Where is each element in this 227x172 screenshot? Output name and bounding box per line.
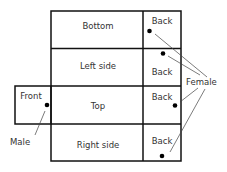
panel-label-front: Front — [20, 91, 42, 101]
male-connector-dot — [45, 103, 50, 108]
female-connector-dot — [173, 103, 178, 108]
female-leader-line — [180, 88, 198, 102]
back-label: Back — [152, 16, 173, 26]
box-net-diagram: Bottom Left side Top Right side Front Ba… — [0, 0, 227, 172]
female-connector-dot — [161, 51, 166, 56]
male-leader-line — [35, 111, 45, 135]
female-leader-line — [170, 89, 205, 152]
panel-label-top: Top — [90, 101, 105, 111]
female-callout-label: Female — [186, 77, 217, 87]
panel-label-left-side: Left side — [80, 61, 116, 71]
back-label: Back — [152, 67, 173, 77]
panel-label-bottom: Bottom — [82, 21, 113, 31]
back-label: Back — [152, 92, 173, 102]
back-label: Back — [152, 136, 173, 146]
male-callout-label: Male — [10, 137, 30, 147]
female-connector-dot — [147, 29, 152, 34]
female-connector-dot — [160, 154, 165, 159]
female-leader-line — [168, 56, 200, 75]
panel-label-right-side: Right side — [77, 140, 120, 150]
